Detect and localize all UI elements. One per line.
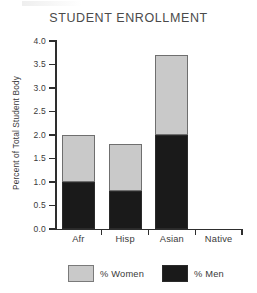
bar-segment-women bbox=[109, 144, 142, 191]
y-axis-tick-label-wrap: 2.0 bbox=[22, 130, 46, 140]
y-axis-tick-label: 0.0 bbox=[22, 224, 46, 234]
bar-segment-men bbox=[155, 135, 188, 229]
plot-area bbox=[55, 41, 242, 229]
y-axis-tick-label-wrap: 0.0 bbox=[22, 224, 46, 234]
y-axis-tick-label: 4.0 bbox=[22, 36, 46, 46]
y-axis-tick-label-wrap: 4.0 bbox=[22, 36, 46, 46]
x-axis-label-hisp: Hisp bbox=[102, 234, 148, 244]
y-axis-tick-label: 2.0 bbox=[22, 130, 46, 140]
y-axis-tick-label-wrap: 2.5 bbox=[22, 106, 46, 116]
y-axis-tick-label-wrap: 0.5 bbox=[22, 200, 46, 210]
bar-segment-men bbox=[62, 182, 95, 229]
y-axis-tick-label: 1.5 bbox=[22, 153, 46, 163]
bar-segment-women bbox=[155, 55, 188, 135]
legend-label: % Men bbox=[194, 269, 224, 279]
y-axis-tick-label-wrap: 3.5 bbox=[22, 59, 46, 69]
legend-item-men[interactable]: % Men bbox=[162, 265, 224, 282]
y-axis-title: Percent of Total Student Body bbox=[11, 38, 21, 228]
bar-asian bbox=[155, 55, 188, 229]
y-axis-tick-label-wrap: 1.0 bbox=[22, 177, 46, 187]
y-axis-tick-label-wrap: 3.0 bbox=[22, 83, 46, 93]
x-axis-label-afr: Afr bbox=[55, 234, 101, 244]
legend-swatch bbox=[68, 265, 94, 282]
bar-hisp bbox=[109, 144, 142, 229]
y-axis-tick-label: 3.5 bbox=[22, 59, 46, 69]
x-axis-label-native: Native bbox=[196, 234, 242, 244]
legend-item-women[interactable]: % Women bbox=[68, 265, 144, 282]
scan-artifact bbox=[22, 1, 82, 6]
bar-afr bbox=[62, 135, 95, 229]
chart-container: STUDENT ENROLLMENT Percent of Total Stud… bbox=[0, 0, 257, 293]
y-axis-tick-label-wrap: 1.5 bbox=[22, 153, 46, 163]
y-axis-tick-label: 2.5 bbox=[22, 106, 46, 116]
y-axis-tick-label: 3.0 bbox=[22, 83, 46, 93]
chart-legend: % Women% Men bbox=[0, 261, 257, 287]
y-axis-tick-label: 0.5 bbox=[22, 200, 46, 210]
x-axis-label-asian: Asian bbox=[149, 234, 195, 244]
legend-swatch bbox=[162, 265, 188, 282]
bar-segment-women bbox=[62, 135, 95, 182]
legend-label: % Women bbox=[100, 269, 144, 279]
chart-title: STUDENT ENROLLMENT bbox=[0, 11, 257, 25]
y-axis-tick-label: 1.0 bbox=[22, 177, 46, 187]
bar-segment-men bbox=[109, 191, 142, 229]
